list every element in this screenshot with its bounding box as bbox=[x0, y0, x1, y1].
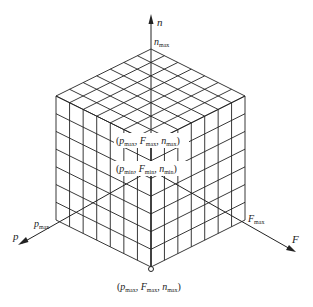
origin-marker-icon bbox=[149, 267, 154, 272]
p-axis-label: p bbox=[12, 230, 19, 242]
p-axis-arrow-icon bbox=[18, 237, 29, 245]
n-max-label: nmax bbox=[154, 36, 169, 48]
cube-diagram: n nmax p pmax F Fmax (pmax, Fmax, nmax) … bbox=[0, 0, 313, 307]
bottom-point-label: (pmax, Fmax, nmax) bbox=[117, 281, 181, 293]
n-axis-arrow-icon bbox=[149, 14, 154, 24]
f-axis-arrow-icon bbox=[286, 245, 296, 252]
n-axis-label: n bbox=[157, 16, 163, 28]
p-max-label: pmax bbox=[33, 218, 49, 230]
f-axis-label: F bbox=[291, 233, 299, 245]
f-axis bbox=[151, 170, 292, 250]
p-axis bbox=[22, 170, 151, 243]
f-max-label: Fmax bbox=[247, 213, 264, 225]
